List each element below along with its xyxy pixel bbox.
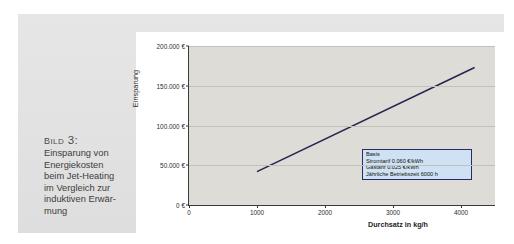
- x-tick-mark: [189, 205, 190, 208]
- legend-entry-value: 6000 h: [421, 171, 438, 178]
- y-tick-label: 150.000 €: [157, 82, 185, 89]
- caption-line: beim Jet-Heating: [44, 171, 130, 183]
- x-tick-label: 4000: [454, 209, 468, 216]
- y-axis-title: Einsparung: [131, 54, 140, 124]
- gridline: [189, 46, 495, 47]
- y-tick-mark: [186, 125, 189, 126]
- x-tick-mark: [325, 205, 326, 208]
- figure-panel: Bild 3: Einsparung von Energiekosten bei…: [18, 14, 504, 233]
- caption-title: Bild 3:: [44, 132, 130, 147]
- gridline: [189, 165, 495, 166]
- legend-title: Basis: [366, 151, 469, 158]
- figure-caption: Bild 3: Einsparung von Energiekosten bei…: [44, 132, 130, 218]
- caption-line: Energiekosten: [44, 160, 130, 172]
- chart-card: Einsparung Basis Stromtarif 0.060 €/kWh …: [136, 32, 514, 240]
- y-tick-mark: [186, 85, 189, 86]
- legend-entry: Stromtarif 0.060 €/kWh: [366, 158, 469, 165]
- x-tick-mark: [393, 205, 394, 208]
- caption-line: mung: [44, 206, 130, 218]
- gridline: [189, 86, 495, 87]
- legend-entry: Jährliche Betriebszeit 6000 h: [366, 171, 469, 178]
- line-chart: Einsparung Basis Stromtarif 0.060 €/kWh …: [136, 32, 514, 240]
- x-tick-label: 3000: [386, 209, 400, 216]
- x-tick-label: 1000: [250, 209, 264, 216]
- plot-area: Basis Stromtarif 0.060 €/kWh Gastarif 0.…: [188, 46, 495, 206]
- caption-line: Einsparung von: [44, 148, 130, 160]
- y-tick-label: 0 €: [176, 202, 185, 209]
- gridline: [189, 126, 495, 127]
- y-tick-label: 200.000 €: [157, 43, 185, 50]
- caption-line: im Vergleich zur: [44, 183, 130, 195]
- x-tick-mark: [461, 205, 462, 208]
- x-tick-label: 0: [187, 209, 191, 216]
- legend-entry-label: Jährliche Betriebszeit: [366, 171, 419, 177]
- x-tick-label: 2000: [318, 209, 332, 216]
- y-tick-mark: [186, 165, 189, 166]
- y-tick-mark: [186, 46, 189, 47]
- caption-line: induktiven Erwär-: [44, 194, 130, 206]
- legend-entry-value: 0.060 €/kWh: [392, 158, 423, 165]
- x-tick-mark: [257, 205, 258, 208]
- x-axis-title: Durchsatz in kg/h: [368, 220, 428, 229]
- y-tick-label: 50.000 €: [160, 162, 185, 169]
- legend-entry-label: Stromtarif: [366, 158, 390, 164]
- y-tick-label: 100.000 €: [157, 122, 185, 129]
